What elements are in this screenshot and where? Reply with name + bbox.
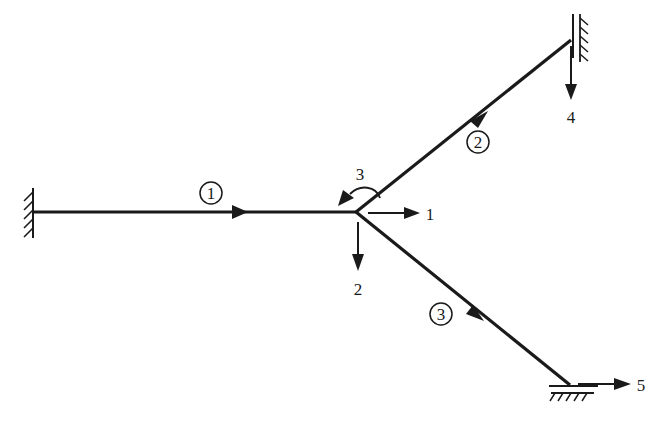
dof-3-label: 3 (356, 165, 365, 184)
dof-2-label: 2 (354, 280, 363, 299)
dof-2-vertical-arrow: 2 (352, 222, 364, 299)
member-3-label: 3 (437, 305, 446, 324)
member-1-direction-arrow-icon (232, 205, 248, 219)
member-2: 2 (356, 40, 571, 212)
dof-1-horizontal-arrow: 1 (368, 205, 434, 224)
top-right-roller-support (573, 14, 588, 62)
dof-1-label: 1 (426, 205, 435, 224)
member-3: 3 (356, 212, 570, 385)
member-1-label: 1 (207, 184, 216, 203)
dof-4-label: 4 (567, 108, 576, 127)
bottom-right-roller-support (549, 386, 598, 401)
left-fixed-support (24, 188, 33, 238)
frame-diagram: 1 2 3 1 (0, 0, 660, 425)
dof-4-vertical-arrow: 4 (565, 46, 577, 127)
arrow-right-icon (404, 207, 420, 219)
dof-5-label: 5 (637, 376, 646, 395)
arrow-right-icon (614, 378, 631, 390)
arrow-down-icon (352, 254, 364, 271)
member-1: 1 (33, 182, 356, 219)
arrow-down-icon (565, 84, 577, 100)
member-2-label: 2 (474, 133, 483, 152)
